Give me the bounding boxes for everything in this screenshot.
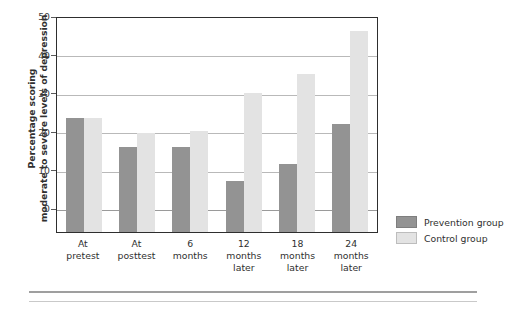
bar-prevention <box>332 124 350 232</box>
x-axis-tick-label-line: later <box>217 262 271 274</box>
x-axis-tick-label-line: months <box>217 250 271 262</box>
x-axis-tick-label: Atposttest <box>110 238 164 275</box>
bar-control <box>137 133 155 232</box>
x-axis-tick-label-line: months <box>271 250 325 262</box>
bar-control <box>84 118 102 232</box>
page-divider-rule-top <box>29 291 477 293</box>
x-axis-tick-label-line: 12 <box>217 238 271 250</box>
x-axis-tick-labels: AtpretestAtposttest6months12monthslater1… <box>56 238 378 275</box>
legend-item[interactable]: Control group <box>396 232 504 244</box>
bar-groups <box>57 18 377 232</box>
bar-group <box>164 18 217 232</box>
x-axis-tick-label-line: At <box>56 238 110 250</box>
legend-item[interactable]: Prevention group <box>396 216 504 228</box>
x-axis-tick-label-line: later <box>324 262 378 274</box>
bar-prevention <box>119 147 137 232</box>
bar-prevention <box>279 164 297 232</box>
bar-control <box>350 31 368 232</box>
legend-swatch-prevention <box>396 216 417 228</box>
legend-label: Control group <box>424 233 488 244</box>
bar-group <box>217 18 270 232</box>
x-axis-tick-label-line: 24 <box>324 238 378 250</box>
x-axis-tick-label-line: 6 <box>163 238 217 250</box>
x-axis-tick-label: 6months <box>163 238 217 275</box>
x-axis-tick-label-line: months <box>163 250 217 262</box>
bar-group <box>324 18 377 232</box>
chart-figure: Percentage scoring moderate to severe le… <box>0 0 505 311</box>
bar-prevention <box>226 181 244 232</box>
bar-control <box>244 93 262 232</box>
y-axis-tick-50: 50 <box>24 12 50 21</box>
bar-group <box>110 18 163 232</box>
legend-label: Prevention group <box>424 217 504 228</box>
bar-control <box>297 74 315 232</box>
bar-prevention <box>172 147 190 232</box>
x-axis-tick-label-line: pretest <box>56 250 110 262</box>
x-axis-tick-label: 24monthslater <box>324 238 378 275</box>
y-axis-tick-0: 0 <box>24 204 50 213</box>
x-axis-tick-label-line: 18 <box>271 238 325 250</box>
x-axis-tick-label-line: later <box>271 262 325 274</box>
y-axis-tick-labels: 01020304050 <box>24 17 50 209</box>
x-axis-tick-label: 12monthslater <box>217 238 271 275</box>
bar-control <box>190 131 208 232</box>
x-axis-tick-label-line: At <box>110 238 164 250</box>
bar-prevention <box>66 118 84 232</box>
x-axis-tick-label: 18monthslater <box>271 238 325 275</box>
x-axis-tick-label: Atpretest <box>56 238 110 275</box>
y-axis-tick-10: 10 <box>24 166 50 175</box>
page-divider-rule-bottom <box>29 301 477 302</box>
y-axis-tick-30: 30 <box>24 89 50 98</box>
bar-group <box>270 18 323 232</box>
x-axis-tick-label-line: months <box>324 250 378 262</box>
chart-legend: Prevention groupControl group <box>396 216 504 248</box>
plot-area <box>56 17 378 233</box>
y-axis-tick-20: 20 <box>24 128 50 137</box>
x-axis-tick-label-line: posttest <box>110 250 164 262</box>
legend-swatch-control <box>396 232 417 244</box>
bar-group <box>57 18 110 232</box>
y-axis-tick-40: 40 <box>24 51 50 60</box>
